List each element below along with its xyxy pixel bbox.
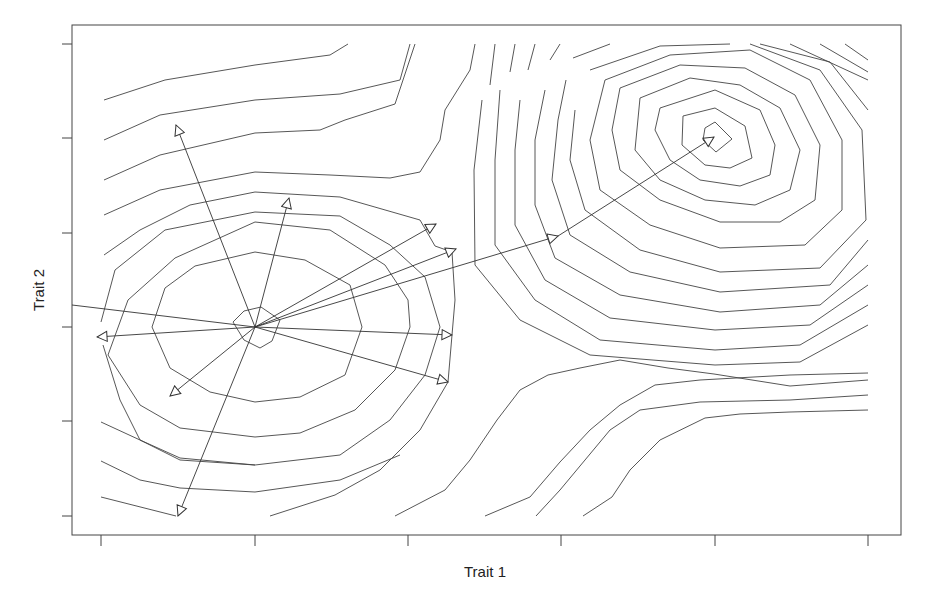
contour-lines bbox=[101, 44, 868, 516]
x-axis-ticks bbox=[101, 535, 868, 546]
y-axis-label: Trait 2 bbox=[30, 269, 47, 311]
contour-plot bbox=[0, 0, 928, 609]
plot-frame bbox=[72, 25, 901, 535]
x-axis-label: Trait 1 bbox=[0, 563, 928, 580]
y-axis-ticks bbox=[62, 44, 72, 516]
